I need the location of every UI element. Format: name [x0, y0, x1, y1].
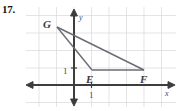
- x-unit-tick-label: 1: [89, 90, 94, 100]
- worksheet-figure-page: 17.: [0, 0, 179, 111]
- vertex-label-g: G: [43, 18, 51, 30]
- vertex-label-f: F: [139, 73, 148, 85]
- problem-number: 17.: [2, 3, 15, 15]
- vertex-label-e: E: [85, 73, 93, 85]
- coordinate-plane-figure: G E F y x 1 1: [26, 7, 176, 107]
- coordinate-plane-svg: G E F y x 1 1: [26, 7, 176, 107]
- y-unit-tick-label: 1: [63, 66, 68, 76]
- x-axis-label: x: [164, 89, 169, 98]
- y-axis-label: y: [78, 13, 83, 22]
